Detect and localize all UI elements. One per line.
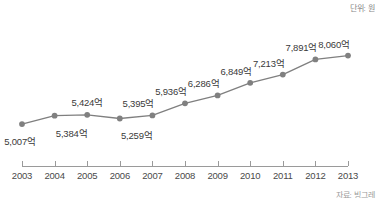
x-tick-2006: [120, 161, 121, 166]
value-label-2008: 5,936억: [155, 84, 187, 98]
x-tick-2013: [348, 161, 349, 166]
value-label-2005: 5,424억: [71, 95, 103, 109]
x-tick-label-2010: 2010: [240, 170, 260, 181]
value-label-2013: 8,060억: [318, 37, 350, 51]
x-tick-2004: [55, 161, 56, 166]
data-point-2004: [52, 113, 58, 119]
x-tick-2005: [87, 161, 88, 166]
x-tick-label-2007: 2007: [142, 170, 162, 181]
data-point-2007: [150, 113, 156, 119]
line-chart-plot: [0, 0, 379, 198]
data-point-2011: [280, 72, 286, 78]
x-tick-label-2003: 2003: [12, 170, 32, 181]
value-label-2011: 7,213억: [253, 56, 285, 70]
data-point-2012: [313, 57, 319, 63]
data-point-2010: [247, 80, 253, 86]
x-tick-2011: [283, 161, 284, 166]
x-tick-label-2006: 2006: [110, 170, 130, 181]
data-point-2003: [19, 121, 25, 127]
data-point-2009: [215, 93, 221, 99]
x-axis-line: [22, 166, 348, 167]
x-tick-label-2012: 2012: [305, 170, 325, 181]
data-point-2013: [345, 53, 351, 59]
value-label-2007: 5,395억: [123, 96, 155, 110]
data-point-2006: [117, 116, 123, 122]
x-tick-2010: [250, 161, 251, 166]
x-tick-2003: [22, 161, 23, 166]
value-label-2012: 7,891억: [286, 40, 318, 54]
value-label-2006: 5,259억: [121, 128, 153, 142]
value-label-2004: 5,384억: [56, 126, 88, 140]
x-tick-label-2013: 2013: [338, 170, 358, 181]
data-point-2008: [182, 100, 188, 106]
value-label-2010: 6,849억: [220, 64, 252, 78]
x-tick-label-2011: 2011: [273, 170, 293, 181]
x-tick-2007: [152, 161, 153, 166]
x-tick-2012: [315, 161, 316, 166]
x-tick-label-2004: 2004: [44, 170, 64, 181]
x-tick-2009: [218, 161, 219, 166]
value-label-2003: 5,007억: [4, 134, 36, 148]
value-label-2009: 6,286억: [188, 76, 220, 90]
x-tick-2008: [185, 161, 186, 166]
x-tick-label-2009: 2009: [207, 170, 227, 181]
data-point-2005: [84, 112, 90, 118]
chart-container: 단위: 원 5,007억5,384억5,424억5,259억5,395억5,93…: [0, 0, 379, 198]
source-note: 자료: 빙그레: [336, 189, 375, 198]
x-tick-label-2008: 2008: [175, 170, 195, 181]
x-tick-label-2005: 2005: [77, 170, 97, 181]
